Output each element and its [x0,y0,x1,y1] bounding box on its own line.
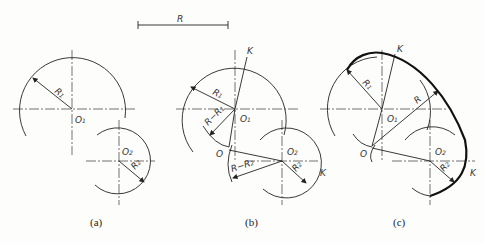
panel-b: R1 K R−R1 O1 O R−R2 O2 R2 K (b) [176,46,327,229]
scale-label: R [177,14,183,24]
panel-c: R1 K O1 R O O2 R2 K (c) [320,44,477,229]
svg-text:O: O [360,149,367,159]
svg-text:O2: O2 [122,147,133,157]
arc-tangent-construction-figure: R R1 O1 O2 R2 (a) R1 K R−R1 O1 O [0,0,485,243]
svg-text:K: K [320,168,327,178]
panel-a: R1 O1 O2 R2 (a) [13,50,155,229]
svg-text:R−R1: R−R1 [202,103,226,127]
svg-text:K: K [470,168,477,178]
svg-text:R1: R1 [361,77,375,91]
svg-text:R: R [412,94,423,106]
caption-a: (a) [90,216,103,229]
svg-text:R2: R2 [129,157,143,171]
svg-text:R1: R1 [53,86,67,100]
svg-text:O: O [216,149,223,159]
svg-text:K: K [397,44,404,54]
caption-b: (b) [245,216,258,229]
scale-bar-r: R [138,14,228,29]
svg-text:O2: O2 [287,147,298,157]
caption-c: (c) [393,216,406,229]
svg-text:O1: O1 [387,114,398,124]
svg-text:K: K [247,46,254,56]
svg-text:O2: O2 [435,147,446,157]
svg-text:O1: O1 [75,115,86,125]
svg-text:O1: O1 [240,114,251,124]
diagram-canvas: R R1 O1 O2 R2 (a) R1 K R−R1 O1 O [0,0,485,243]
